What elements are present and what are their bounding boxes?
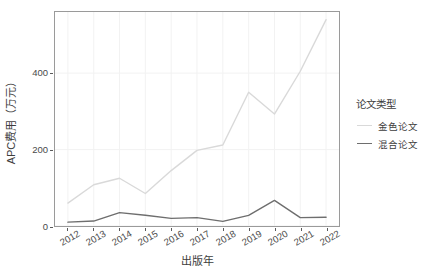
x-tick-mark — [327, 228, 328, 231]
legend-title: 论文类型 — [356, 96, 442, 111]
legend-line-icon — [356, 137, 372, 151]
y-tick-label: 400 — [22, 68, 48, 78]
legend-items: 金色论文 混合论文 — [356, 118, 442, 151]
series-lines — [55, 12, 339, 226]
legend: 论文类型 金色论文 混合论文 — [356, 96, 442, 154]
y-tick-label: 200 — [22, 145, 48, 155]
y-tick-mark — [50, 227, 53, 228]
y-tick-label: 0 — [22, 222, 48, 232]
x-tick-mark — [67, 228, 68, 231]
x-tick-mark — [249, 228, 250, 231]
x-axis-title: 出版年 — [54, 252, 340, 268]
x-tick-mark — [171, 228, 172, 231]
legend-item[interactable]: 金色论文 — [356, 118, 442, 133]
legend-item[interactable]: 混合论文 — [356, 136, 442, 151]
x-tick-mark — [145, 228, 146, 231]
chart-container: APC费用（万元） 0200400 2012201320142015201620… — [0, 0, 444, 269]
legend-item-label: 混合论文 — [378, 137, 418, 151]
legend-item-label: 金色论文 — [378, 119, 418, 133]
y-axis-title: APC费用（万元） — [2, 0, 18, 240]
plot-panel — [54, 11, 340, 227]
x-tick-mark — [301, 228, 302, 231]
x-tick-mark — [275, 228, 276, 231]
x-tick-mark — [197, 228, 198, 231]
x-tick-mark — [93, 228, 94, 231]
y-axis-title-text: APC费用（万元） — [2, 76, 18, 165]
x-tick-mark — [119, 228, 120, 231]
y-tick-mark — [50, 73, 53, 74]
x-tick-mark — [223, 228, 224, 231]
legend-line-icon — [356, 119, 372, 133]
y-tick-mark — [50, 150, 53, 151]
